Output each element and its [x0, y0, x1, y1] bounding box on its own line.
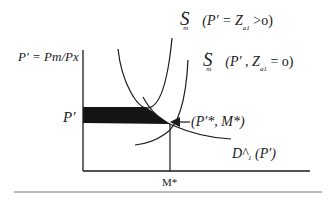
curve-subscript: m: [206, 65, 211, 73]
curve-superscript: ′: [207, 51, 209, 60]
demand-symbol: D^: [232, 146, 248, 161]
demand-subscript: 1: [248, 154, 252, 162]
curve-superscript: ′: [184, 10, 186, 19]
equilibrium-label-text: (P′*, M*): [191, 114, 245, 129]
curve-condition-subscript: a1: [260, 65, 267, 73]
demand-argument: (P′): [252, 146, 276, 161]
supply-curve-zero-tariff-label: S′m (P′ , Za1 = o): [203, 50, 293, 69]
curve-subscript: m: [183, 24, 188, 32]
curve-condition-subscript: a1: [243, 24, 250, 32]
supply-curve-positive-tariff-label: S′m (P′ = Za1 >o): [180, 9, 273, 28]
x-axis-tick-label: M*: [162, 177, 177, 188]
y-axis-label: P′ = Pm/Px: [18, 50, 79, 63]
y-axis-label-text: P′ = Pm/Px: [18, 49, 79, 64]
demand-curve-label: D^1 (P′): [232, 147, 276, 161]
curve-condition: (P′ = Z: [202, 13, 243, 28]
diagram-canvas: [0, 0, 330, 203]
curve-condition-tail: = o): [267, 54, 294, 69]
curve-condition: (P′ , Z: [225, 54, 260, 69]
curve-condition-tail: >o): [250, 13, 273, 28]
arrow-head-icon: [170, 117, 180, 127]
equilibrium-label: (P′*, M*): [191, 115, 245, 129]
y-axis-tick-label: P′: [63, 110, 75, 125]
supply-curve-positive-tariff: [118, 38, 172, 108]
supply-curve-zero-tariff: [135, 60, 188, 145]
